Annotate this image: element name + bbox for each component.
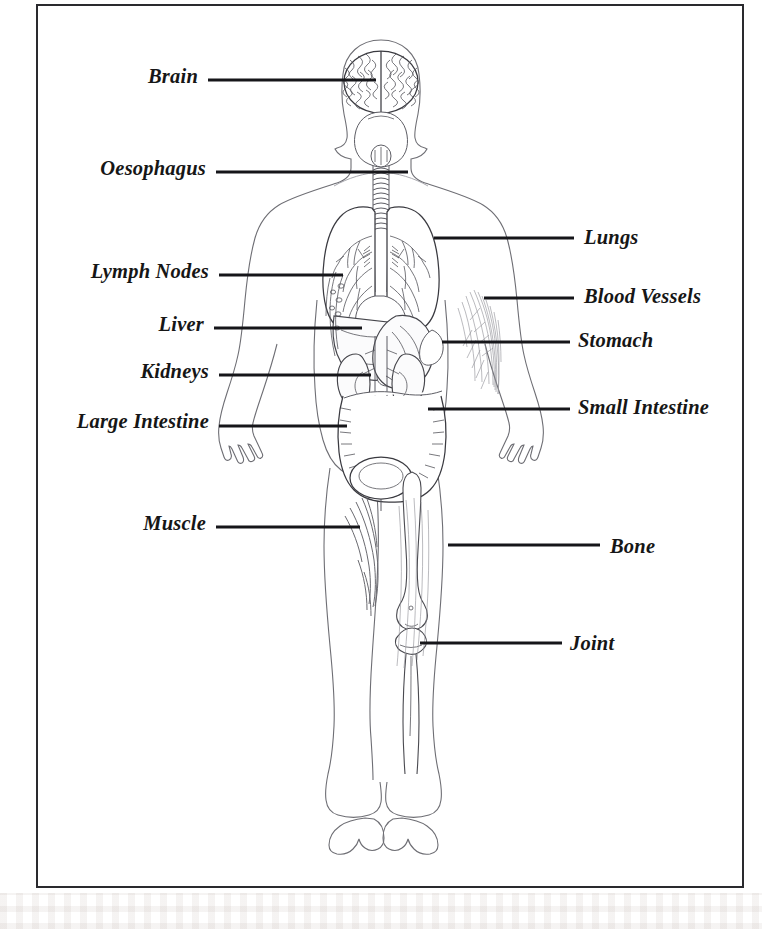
label-liver: Liver <box>159 314 204 335</box>
muscle-anatomy <box>345 496 378 616</box>
leader-line-lungs <box>434 237 574 240</box>
leader-line-muscle <box>216 526 360 529</box>
leader-line-blood-vessels <box>484 297 574 300</box>
label-oesophagus: Oesophagus <box>100 158 206 179</box>
leader-line-kidneys <box>219 374 371 377</box>
label-small-intestine: Small Intestine <box>578 397 709 418</box>
label-stomach: Stomach <box>578 330 653 351</box>
label-bone: Bone <box>610 536 655 557</box>
brain-organ <box>343 51 419 113</box>
skull-jaw-larynx <box>354 112 407 167</box>
anatomy-illustration <box>0 0 762 929</box>
leader-line-bone <box>448 544 600 547</box>
label-large-intestine: Large Intestine <box>77 411 209 432</box>
leader-line-joint <box>420 642 562 645</box>
lower-leg-bones <box>403 654 419 774</box>
leader-line-brain <box>208 79 376 82</box>
label-blood-vessels: Blood Vessels <box>584 286 701 307</box>
label-kidneys: Kidneys <box>140 361 209 382</box>
leader-line-small-intestine <box>428 408 570 411</box>
leader-line-liver <box>214 327 362 330</box>
leader-line-stomach <box>442 341 570 344</box>
label-brain: Brain <box>148 66 198 87</box>
leader-line-lymph-nodes <box>219 274 343 277</box>
label-lymph-nodes: Lymph Nodes <box>91 261 209 282</box>
label-lungs: Lungs <box>584 227 639 248</box>
body-figure-svg <box>0 0 762 929</box>
leader-line-large-intestine <box>219 425 347 428</box>
label-muscle: Muscle <box>143 513 206 534</box>
leader-line-oesophagus <box>216 171 408 174</box>
label-joint: Joint <box>570 633 614 654</box>
